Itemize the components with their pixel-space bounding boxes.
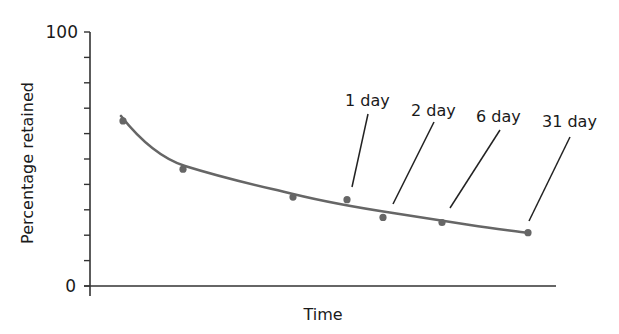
annotation-6-day: 6 day bbox=[476, 107, 521, 126]
leader-1-day bbox=[352, 114, 368, 187]
x-axis: Time bbox=[84, 286, 556, 324]
retention-chart: 100 0 Percentage retained Time 1 day 2 d… bbox=[0, 0, 619, 334]
data-point bbox=[179, 166, 186, 173]
data-point bbox=[119, 117, 126, 124]
y-axis-ticks bbox=[84, 32, 90, 286]
leader-6-day bbox=[450, 130, 500, 208]
y-tick-label-100: 100 bbox=[46, 22, 78, 42]
x-axis-title: Time bbox=[302, 305, 342, 324]
annotation-2-day: 2 day bbox=[411, 101, 456, 120]
forgetting-curve bbox=[121, 116, 528, 233]
data-point bbox=[289, 194, 296, 201]
data-point bbox=[379, 214, 386, 221]
data-point bbox=[524, 229, 531, 236]
leader-2-day bbox=[393, 122, 434, 204]
y-tick-label-0: 0 bbox=[65, 276, 76, 296]
annotation-1-day: 1 day bbox=[345, 91, 390, 110]
annotation-leaders bbox=[352, 114, 570, 221]
data-point bbox=[343, 196, 350, 203]
annotation-labels: 1 day 2 day 6 day 31 day bbox=[345, 91, 597, 131]
leader-31-day bbox=[529, 137, 570, 221]
y-axis: 100 0 Percentage retained bbox=[18, 22, 90, 296]
annotation-31-day: 31 day bbox=[542, 112, 597, 131]
data-point bbox=[438, 219, 445, 226]
y-axis-title: Percentage retained bbox=[18, 82, 37, 244]
